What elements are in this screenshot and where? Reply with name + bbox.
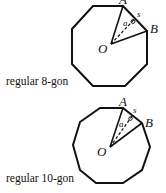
decagon-label-side: s [133,105,137,115]
decagon-label-B: B [145,115,153,130]
octagon-figure: A B O a s regular 8-gon [6,0,158,88]
decagon-caption: regular 10-gon [6,172,74,185]
octagon-radius-OB [111,31,147,44]
decagon-label-apothem: a [119,119,124,129]
octagon-label-B: B [150,21,158,36]
decagon-figure: A B O a s regular 10-gon [6,94,153,185]
decagon-label-O: O [97,144,107,159]
octagon-radius-OA [111,6,123,44]
octagon-label-apothem: a [123,18,128,28]
polygon-diagram: A B O a s regular 8-gon A B O a s regula… [0,0,166,193]
octagon-label-A: A [118,0,127,7]
octagon-label-side: s [137,9,141,19]
octagon-outline [72,6,147,86]
octagon-label-O: O [98,41,108,56]
decagon-label-A: A [118,94,127,109]
octagon-caption: regular 8-gon [6,75,69,88]
